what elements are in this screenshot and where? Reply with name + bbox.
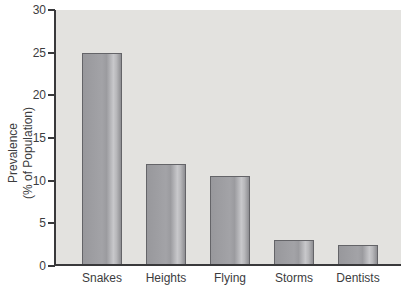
y-tick-label-30: 30 [18, 3, 46, 17]
y-tick-30 [48, 9, 55, 11]
y-tick-label-10: 10 [18, 174, 46, 188]
y-tick-5 [48, 222, 55, 224]
y-tick-25 [48, 52, 55, 54]
y-tick-20 [48, 94, 55, 96]
y-tick-15 [48, 137, 55, 139]
y-tick-label-25: 25 [18, 46, 46, 60]
bar-snakes [82, 53, 122, 266]
x-category-label-flying: Flying [198, 271, 262, 285]
x-category-label-storms: Storms [262, 271, 326, 285]
x-axis-line [54, 264, 401, 266]
fears-prevalence-bar-chart: Prevalence (% of Population) 05101520253… [0, 0, 406, 296]
bar-heights [146, 164, 186, 266]
y-tick-10 [48, 180, 55, 182]
x-category-label-dentists: Dentists [326, 271, 390, 285]
bar-storms [274, 240, 314, 266]
y-tick-label-0: 0 [18, 259, 46, 273]
y-tick-label-15: 15 [18, 131, 46, 145]
y-tick-0 [48, 265, 55, 267]
y-tick-label-20: 20 [18, 88, 46, 102]
x-category-label-snakes: Snakes [70, 271, 134, 285]
bar-flying [210, 176, 250, 266]
y-tick-label-5: 5 [18, 216, 46, 230]
x-category-label-heights: Heights [134, 271, 198, 285]
bar-dentists [338, 245, 378, 266]
